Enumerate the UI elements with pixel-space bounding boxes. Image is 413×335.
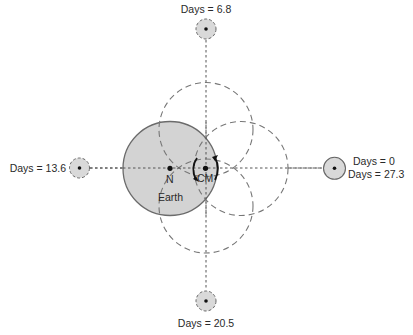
moon-right-label-day27: Days = 27.3: [348, 168, 404, 180]
moon-right: Days = 0 Days = 27.3: [324, 155, 405, 180]
center-of-mass-dot: [203, 166, 208, 171]
moon-right-label-day0: Days = 0: [353, 155, 395, 167]
center-of-mass-label: CM: [197, 172, 213, 184]
earth-moon-orbit-diagram: N CM Earth Days = 6.8 Days = 13.6 Days =…: [0, 0, 413, 335]
moon-bottom: Days = 20.5: [178, 291, 234, 329]
moon-top-dot: [204, 27, 208, 31]
moon-left-dot: [78, 166, 82, 170]
moon-left: Days = 13.6: [10, 158, 90, 178]
moon-top: Days = 6.8: [181, 3, 232, 39]
moon-right-dot: [333, 167, 337, 171]
moon-bottom-label: Days = 20.5: [178, 317, 234, 329]
moon-left-label: Days = 13.6: [10, 162, 66, 174]
earth-label: Earth: [158, 191, 183, 203]
north-pole-label: N: [166, 173, 174, 185]
moon-bottom-dot: [204, 299, 208, 303]
moon-top-label: Days = 6.8: [181, 3, 232, 15]
north-pole-dot: [167, 166, 172, 171]
